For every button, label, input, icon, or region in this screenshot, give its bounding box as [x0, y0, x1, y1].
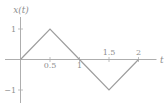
- x-tick-label-1.5: 1.5: [103, 48, 116, 57]
- plot-canvas: 0.511.521−1 x(t) t: [0, 0, 168, 109]
- signal-plot-figure: 0.511.521−1 x(t) t: [0, 0, 168, 109]
- x-tick-label-1: 1: [77, 61, 82, 70]
- x-axis-label: t: [160, 55, 164, 65]
- y-axis-label: x(t): [13, 5, 29, 15]
- x-tick-label-2: 2: [136, 48, 141, 57]
- x-tick-label-0.5: 0.5: [44, 61, 57, 70]
- y-tick-label-1: 1: [11, 25, 16, 34]
- y-tick-label-−1: −1: [4, 86, 16, 95]
